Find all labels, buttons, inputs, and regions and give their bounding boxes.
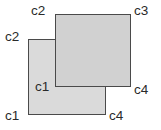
upper-right-rectangle [55,14,131,87]
label-lower-rect-top-left: c2 [5,30,19,44]
label-upper-rect-top-right: c3 [134,4,148,18]
label-upper-rect-top-left: c2 [31,4,45,18]
label-upper-rect-bottom-right: c4 [134,83,148,97]
label-upper-rect-bottom-left: c1 [35,80,49,94]
label-lower-rect-bottom-left: c1 [5,109,19,123]
label-lower-rect-bottom-right: c4 [109,109,123,123]
diagram-canvas: c2 c3 c2 c1 c4 c1 c4 [0,0,161,130]
